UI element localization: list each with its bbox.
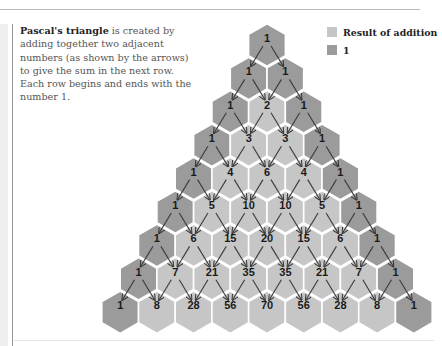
hex-value: 2 xyxy=(264,99,270,111)
hex-value: 15 xyxy=(224,232,236,244)
hex-value: 1 xyxy=(246,65,252,77)
hex-value: 70 xyxy=(261,299,273,311)
hex-value: 4 xyxy=(301,166,308,178)
hex-value: 15 xyxy=(298,232,310,244)
hex-value: 6 xyxy=(264,166,270,178)
hex-value: 1 xyxy=(191,166,197,178)
hex-value: 1 xyxy=(356,199,362,211)
pascal-triangle: 1111211331146411510105116152015611721353… xyxy=(0,0,442,346)
hex-value: 1 xyxy=(319,132,325,144)
hex-value: 7 xyxy=(172,266,178,278)
hex-value: 1 xyxy=(374,232,380,244)
hex-value: 1 xyxy=(337,166,343,178)
hex-value: 21 xyxy=(206,266,218,278)
hex-value: 10 xyxy=(279,199,291,211)
hex-value: 6 xyxy=(337,232,343,244)
hex-value: 1 xyxy=(392,266,398,278)
hex-value: 20 xyxy=(261,232,273,244)
hex-value: 5 xyxy=(209,199,215,211)
hex-value: 5 xyxy=(319,199,325,211)
hex-value: 3 xyxy=(282,132,288,144)
hex-value: 1 xyxy=(209,132,215,144)
hex-value: 4 xyxy=(227,166,234,178)
hex-value: 1 xyxy=(154,232,160,244)
hex-value: 56 xyxy=(224,299,236,311)
hex-value: 10 xyxy=(243,199,255,211)
hex-value: 8 xyxy=(154,299,160,311)
hex-value: 1 xyxy=(282,65,288,77)
hex-value: 1 xyxy=(264,32,270,44)
hex-value: 1 xyxy=(227,99,233,111)
hex-value: 1 xyxy=(301,99,307,111)
hex-value: 28 xyxy=(334,299,346,311)
hex-value: 35 xyxy=(279,266,291,278)
hex-value: 28 xyxy=(187,299,199,311)
hex-value: 35 xyxy=(243,266,255,278)
hex-value: 1 xyxy=(117,299,123,311)
hex-value: 1 xyxy=(135,266,141,278)
hex-value: 3 xyxy=(246,132,252,144)
hex-value: 8 xyxy=(374,299,380,311)
hex-value: 1 xyxy=(411,299,417,311)
hex-value: 21 xyxy=(316,266,328,278)
hex-value: 7 xyxy=(356,266,362,278)
hex-value: 1 xyxy=(172,199,178,211)
hex-value: 56 xyxy=(298,299,310,311)
hex-value: 6 xyxy=(191,232,197,244)
